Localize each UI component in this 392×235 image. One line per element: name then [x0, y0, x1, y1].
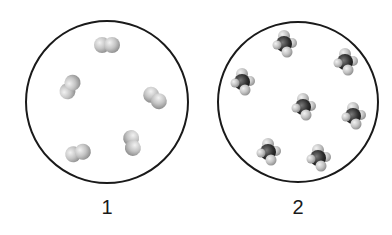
tetrahedral-molecule: [257, 138, 282, 166]
tetrahedral-molecule: [342, 102, 367, 130]
tetrahedral-molecule: [307, 144, 332, 172]
panel-label-1: 1: [101, 196, 112, 219]
diatomic-molecule: [94, 37, 120, 53]
panel-1-molecules: [57, 37, 171, 164]
diatomic-molecule: [122, 129, 142, 157]
tetrahedral-molecule: [292, 93, 317, 121]
diagram-canvas: [0, 0, 392, 235]
tetrahedral-molecule: [231, 68, 256, 96]
tetrahedral-molecule: [273, 30, 298, 58]
panel-2-molecules: [231, 30, 367, 172]
tetrahedral-molecule: [334, 48, 359, 76]
diatomic-molecule: [57, 72, 84, 103]
diatomic-molecule: [63, 142, 92, 164]
diatomic-molecule: [140, 84, 170, 113]
panel-label-2: 2: [292, 196, 303, 219]
